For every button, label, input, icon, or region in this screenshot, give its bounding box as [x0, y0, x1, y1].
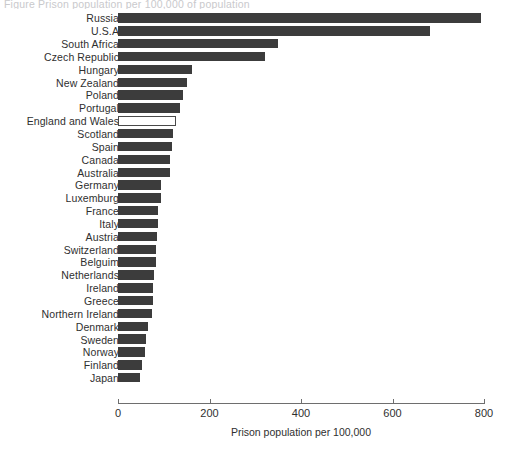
category-label: Germany [75, 180, 119, 191]
category-label: Canada [82, 154, 119, 165]
x-tick [210, 399, 211, 404]
bar-row: Belguim [0, 256, 511, 269]
category-label: Finland [84, 360, 119, 371]
bar-track [118, 179, 511, 192]
bar [118, 129, 173, 138]
bar-row: Ireland [0, 282, 511, 295]
bar [118, 296, 153, 305]
bar [118, 26, 430, 35]
bar [118, 257, 156, 266]
bar [118, 232, 157, 241]
bar-row: Denmark [0, 320, 511, 333]
bar-track [118, 166, 511, 179]
bar-track [118, 205, 511, 218]
x-tick [393, 399, 394, 404]
category-label: South Africa [61, 39, 119, 50]
bar-track [118, 102, 511, 115]
bar-track [118, 140, 511, 153]
bar-row: Canada [0, 153, 511, 166]
x-tick [484, 399, 485, 404]
bar-track [118, 218, 511, 231]
bar-row: Switzerland [0, 243, 511, 256]
bar [118, 360, 142, 369]
category-label: Japan [90, 373, 119, 384]
bar-row: Australia [0, 166, 511, 179]
bar-rows: RussiaU.S.ASouth AfricaCzech RepublicHun… [0, 12, 511, 384]
x-tick-label: 600 [383, 407, 401, 419]
x-tick [301, 399, 302, 404]
bar-track [118, 12, 511, 25]
bar [118, 245, 156, 254]
bar [118, 13, 481, 22]
bar [118, 90, 183, 99]
bar-row: Sweden [0, 333, 511, 346]
bar-track [118, 76, 511, 89]
bar-row: Northern Ireland [0, 307, 511, 320]
bar-row: Japan [0, 372, 511, 385]
bar-track [118, 333, 511, 346]
bar-row: U.S.A [0, 25, 511, 38]
category-label: U.S.A [91, 26, 119, 37]
bar [118, 39, 278, 48]
bar [118, 168, 170, 177]
bar-track [118, 153, 511, 166]
bar [118, 180, 161, 189]
bar-track [118, 63, 511, 76]
bar-track [118, 89, 511, 102]
category-label: Austria [86, 231, 119, 242]
category-label: England and Wales [27, 116, 119, 127]
category-label: Ireland [86, 283, 119, 294]
category-label: Czech Republic [44, 51, 119, 62]
x-tick-label: 200 [200, 407, 218, 419]
bar [118, 65, 192, 74]
x-axis-line [118, 403, 484, 404]
category-label: Russia [86, 13, 119, 24]
bar-row: New Zealand [0, 76, 511, 89]
bar [118, 334, 146, 343]
bar-row: Luxemburg [0, 192, 511, 205]
bar-row: Germany [0, 179, 511, 192]
clipped-figure-title: Figure Prison population per 100,000 of … [0, 0, 511, 9]
category-label: Australia [77, 167, 119, 178]
bar [118, 309, 152, 318]
bar-row: England and Wales [0, 115, 511, 128]
bar [118, 206, 158, 215]
bar-track [118, 243, 511, 256]
bar-track [118, 256, 511, 269]
category-label: Poland [86, 90, 119, 101]
bar-row: Italy [0, 218, 511, 231]
category-label: Greece [84, 295, 119, 306]
bar-row: Poland [0, 89, 511, 102]
bar-track [118, 38, 511, 51]
category-label: Netherlands [61, 270, 119, 281]
bar-track [118, 25, 511, 38]
x-tick-label: 0 [115, 407, 121, 419]
bar [118, 116, 176, 125]
bar [118, 52, 265, 61]
bar [118, 155, 170, 164]
bar-row: Austria [0, 230, 511, 243]
bar-row: Russia [0, 12, 511, 25]
category-label: France [86, 206, 119, 217]
bar [118, 373, 140, 382]
bar-row: Scotland [0, 128, 511, 141]
bar-row: Netherlands [0, 269, 511, 282]
category-label: Norway [83, 347, 119, 358]
category-label: Sweden [80, 334, 119, 345]
bar-track [118, 51, 511, 64]
bar-track [118, 295, 511, 308]
bar [118, 270, 154, 279]
bar-row: Hungary [0, 63, 511, 76]
bar-track [118, 192, 511, 205]
bar-row: Portugal [0, 102, 511, 115]
category-label: Belguim [80, 257, 119, 268]
x-tick [118, 399, 119, 404]
bar [118, 322, 148, 331]
x-tick-label: 400 [292, 407, 310, 419]
bar [118, 347, 145, 356]
category-label: Denmark [76, 321, 119, 332]
bar-track [118, 307, 511, 320]
category-label: Portugal [79, 103, 119, 114]
bar-row: Spain [0, 140, 511, 153]
bar-track [118, 230, 511, 243]
